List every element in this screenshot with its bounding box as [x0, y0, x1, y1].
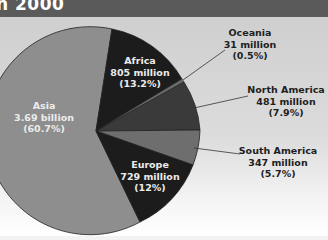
label-oceania-name: Oceania [220, 27, 280, 39]
label-africa-value: 805 million [108, 67, 172, 79]
label-oceania-value: 31 million [220, 39, 280, 51]
leader-line-oceania [183, 50, 225, 80]
label-south-america-value: 347 million [236, 157, 320, 169]
label-asia-pct: (60.7%) [12, 123, 76, 135]
leader-line-south-america [194, 148, 240, 154]
label-north-america-pct: (7.9%) [244, 107, 328, 119]
label-oceania: Oceania 31 million (0.5%) [220, 27, 280, 62]
label-asia-value: 3.69 billion [12, 112, 76, 124]
label-south-america-pct: (5.7%) [236, 168, 320, 180]
label-asia: Asia 3.69 billion (60.7%) [12, 100, 76, 135]
label-africa-pct: (13.2%) [108, 78, 172, 90]
label-africa-name: Africa [108, 55, 172, 67]
label-europe-value: 729 million [118, 171, 182, 183]
leader-line-north-america [194, 96, 248, 108]
label-north-america-value: 481 million [244, 96, 328, 108]
label-south-america: South America 347 million (5.7%) [236, 145, 320, 180]
label-asia-name: Asia [12, 100, 76, 112]
label-africa: Africa 805 million (13.2%) [108, 55, 172, 90]
label-europe-pct: (12%) [118, 182, 182, 194]
label-north-america-name: North America [244, 84, 328, 96]
label-north-america: North America 481 million (7.9%) [244, 84, 328, 119]
label-south-america-name: South America [236, 145, 320, 157]
label-europe-name: Europe [118, 159, 182, 171]
label-europe: Europe 729 million (12%) [118, 159, 182, 194]
label-oceania-pct: (0.5%) [220, 50, 280, 62]
